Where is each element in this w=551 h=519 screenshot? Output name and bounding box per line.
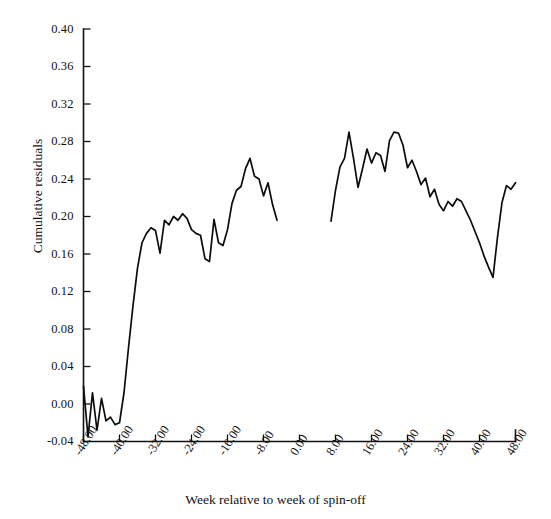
y-tick-marks — [84, 29, 91, 442]
y-tick-label: 0.00 — [0, 398, 74, 411]
data-series-group — [84, 132, 516, 437]
series-line — [331, 132, 516, 277]
y-tick-label: -0.04 — [0, 435, 74, 448]
y-tick-label: 0.04 — [0, 360, 74, 373]
series-line — [84, 158, 278, 436]
y-tick-label: 0.08 — [0, 323, 74, 336]
y-axis-title: Cumulative residuals — [30, 96, 46, 296]
y-tick-label: 0.40 — [0, 23, 74, 36]
y-tick-label: 0.36 — [0, 60, 74, 73]
x-axis-title: Week relative to week of spin-off — [0, 492, 551, 508]
cumulative-residuals-chart: -0.040.000.040.080.120.160.200.240.280.3… — [0, 0, 551, 519]
